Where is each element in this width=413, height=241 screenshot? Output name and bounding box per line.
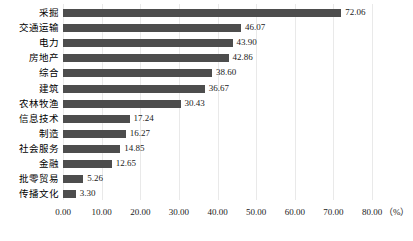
plot-area: 72.0646.0743.9042.8638.6036.6730.4317.24… [63, 4, 372, 200]
category-label: 制造 [39, 126, 59, 142]
gridline [372, 4, 373, 200]
x-tick-label: 40.00 [207, 204, 227, 220]
category-label: 信息技术 [19, 111, 59, 127]
bar [63, 190, 76, 198]
x-tick-label: 60.00 [285, 204, 305, 220]
bar-row: 12.65 [63, 156, 372, 172]
category-label: 金融 [39, 156, 59, 172]
bar-value-label: 30.43 [185, 95, 205, 111]
category-axis: 采掘交通运输电力房地产综合建筑农林牧渔信息技术制造社会服务金融批零贸易传播文化 [0, 4, 59, 200]
bar-value-label: 38.60 [216, 64, 236, 80]
bar-row: 3.30 [63, 186, 372, 202]
bar-row: 36.67 [63, 81, 372, 97]
category-label: 综合 [39, 65, 59, 81]
category-label: 社会服务 [19, 141, 59, 157]
x-tick-label: 50.00 [246, 204, 266, 220]
bar-row: 72.06 [63, 5, 372, 21]
bar [63, 85, 205, 93]
bar-row: 14.85 [63, 141, 372, 157]
bar-row: 46.07 [63, 20, 372, 36]
bar [63, 54, 229, 62]
bar-value-label: 72.06 [345, 4, 365, 20]
category-label: 批零贸易 [19, 171, 59, 187]
bar [63, 145, 120, 153]
bar-value-label: 5.26 [87, 170, 103, 186]
category-label: 采掘 [39, 5, 59, 21]
x-tick-label: 80.00 [362, 204, 382, 220]
bar-value-label: 42.86 [233, 49, 253, 65]
category-label: 交通运输 [19, 20, 59, 36]
x-tick-label: 20.00 [130, 204, 150, 220]
bar-row: 16.27 [63, 126, 372, 142]
bar-row: 5.26 [63, 171, 372, 187]
bar [63, 39, 233, 47]
bar-row: 30.43 [63, 96, 372, 112]
bar-value-label: 36.67 [209, 80, 229, 96]
bar-series: 72.0646.0743.9042.8638.6036.6730.4317.24… [63, 4, 372, 200]
category-label: 房地产 [29, 50, 59, 66]
bar-value-label: 14.85 [124, 140, 144, 156]
bar [63, 24, 241, 32]
bar-value-label: 17.24 [134, 110, 154, 126]
bar-row: 43.90 [63, 35, 372, 51]
value-axis: 0.0010.0020.0030.0040.0050.0060.0070.008… [63, 204, 372, 220]
x-tick-label: 70.00 [323, 204, 343, 220]
bar-row: 17.24 [63, 111, 372, 127]
bar [63, 100, 181, 108]
bar-value-label: 43.90 [237, 34, 257, 50]
x-axis-unit-label: （%） [384, 204, 410, 220]
category-label: 农林牧渔 [19, 96, 59, 112]
x-tick-label: 30.00 [169, 204, 189, 220]
bar-chart: 采掘交通运输电力房地产综合建筑农林牧渔信息技术制造社会服务金融批零贸易传播文化 … [0, 0, 413, 241]
bar [63, 69, 212, 77]
bar-value-label: 3.30 [80, 185, 96, 201]
x-tick-label: 0.00 [55, 204, 71, 220]
bar-value-label: 12.65 [116, 155, 136, 171]
x-tick-label: 10.00 [92, 204, 112, 220]
bar [63, 175, 83, 183]
bar-value-label: 16.27 [130, 125, 150, 141]
category-label: 建筑 [39, 81, 59, 97]
bar-value-label: 46.07 [245, 19, 265, 35]
bar [63, 130, 126, 138]
bar [63, 9, 341, 17]
category-label: 电力 [39, 35, 59, 51]
bar [63, 160, 112, 168]
category-label: 传播文化 [19, 186, 59, 202]
bar [63, 115, 130, 123]
